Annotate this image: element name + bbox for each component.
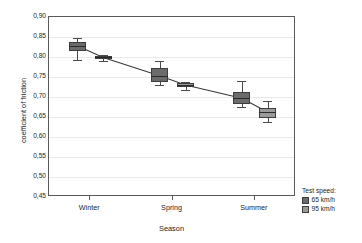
- x-tick-label-winter: Winter: [54, 203, 124, 212]
- x-tick-mark: [172, 196, 173, 200]
- legend-label: 65 km/h: [312, 197, 335, 204]
- whisker-stem-lower: [77, 51, 78, 60]
- y-tick-label: 0,85: [20, 33, 46, 40]
- legend-title: Test speed:: [302, 188, 336, 195]
- whisker-stem-upper: [160, 61, 161, 68]
- whisker-stem-upper: [268, 101, 269, 108]
- median-line: [233, 98, 250, 99]
- legend-swatch: [302, 197, 309, 204]
- legend-items: 65 km/h95 km/h: [302, 197, 336, 213]
- x-tick-label-summer: Summer: [219, 203, 289, 212]
- whisker-cap-upper: [263, 101, 272, 102]
- median-line: [95, 57, 112, 58]
- y-tick-label: 0,65: [20, 113, 46, 120]
- legend-swatch: [302, 206, 309, 213]
- y-tick-label: 0,70: [20, 93, 46, 100]
- median-line: [151, 76, 168, 77]
- whisker-cap-lower: [263, 122, 272, 123]
- box-iqr: [151, 68, 168, 82]
- plot-area: [48, 16, 295, 196]
- box-plot-chart: coefficient of friction 0,900,850,800,75…: [0, 0, 362, 243]
- median-connecting-line: [49, 17, 295, 196]
- whisker-cap-lower: [181, 90, 190, 91]
- whisker-cap-lower: [99, 61, 108, 62]
- y-tick-label: 0,60: [20, 133, 46, 140]
- y-tick-label: 0,90: [20, 13, 46, 20]
- whisker-cap-lower: [155, 85, 164, 86]
- whisker-cap-upper: [237, 81, 246, 82]
- x-axis-title: Season: [48, 224, 295, 233]
- x-tick-mark: [89, 196, 90, 200]
- legend-label: 95 km/h: [312, 206, 335, 213]
- x-tick-label-spring: Spring: [137, 203, 207, 212]
- y-tick-label: 0,80: [20, 53, 46, 60]
- legend-item-95kmh: 95 km/h: [302, 206, 336, 213]
- y-tick-label: 0,45: [20, 193, 46, 200]
- whisker-cap-upper: [73, 38, 82, 39]
- y-tick-label: 0,55: [20, 153, 46, 160]
- median-line: [177, 85, 194, 86]
- whisker-stem-upper: [242, 81, 243, 92]
- y-tick-label: 0,75: [20, 73, 46, 80]
- median-line: [69, 46, 86, 47]
- whisker-cap-lower: [73, 60, 82, 61]
- x-tick-mark: [254, 196, 255, 200]
- whisker-cap-upper: [155, 61, 164, 62]
- y-tick-label: 0,50: [20, 173, 46, 180]
- y-axis-ticks: 0,900,850,800,750,700,650,600,550,500,45: [14, 0, 46, 243]
- median-line: [259, 112, 276, 113]
- legend: Test speed: 65 km/h95 km/h: [302, 188, 336, 214]
- legend-item-65kmh: 65 km/h: [302, 197, 336, 204]
- whisker-cap-lower: [237, 107, 246, 108]
